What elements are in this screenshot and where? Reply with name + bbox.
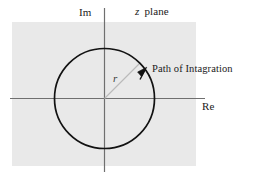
plane-word: plane [144,5,168,17]
figure-canvas [0,0,254,176]
complex-plane-figure: Im zplane Re r Path of Intagration [0,0,254,176]
z-symbol: z [135,5,139,17]
real-axis-label: Re [202,101,214,112]
radius-label: r [113,73,117,84]
z-plane-label: zplane [135,6,169,17]
imaginary-axis-label: Im [79,7,91,18]
path-of-integration-label: Path of Intagration [152,64,233,75]
